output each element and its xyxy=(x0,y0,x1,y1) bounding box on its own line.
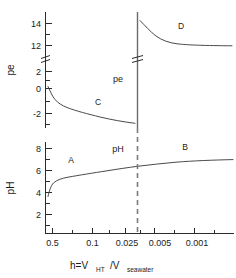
x-axis-title-mid: /V xyxy=(110,260,120,271)
pe-inline-label: pe xyxy=(113,74,123,84)
x-tick-label-1: 0.1 xyxy=(86,238,99,248)
pe-tick-label-12: 12 xyxy=(31,41,41,51)
pe-minor-ticks xyxy=(46,35,50,125)
ph-tick-label-4: 4 xyxy=(36,188,41,198)
pe-major-ticks xyxy=(46,24,52,114)
figure-root: 14 12 2 0 -2 pe C D pe xyxy=(0,0,236,278)
x-minor-ticks xyxy=(73,230,215,234)
curve-C xyxy=(48,87,135,124)
x-tick-label-3: 0.005 xyxy=(149,238,172,248)
ph-axis-title: pH xyxy=(5,182,16,195)
pe-panel: 14 12 2 0 -2 pe C D pe xyxy=(5,12,232,128)
pe-tick-label-minus2: -2 xyxy=(33,109,41,119)
curve-A xyxy=(48,166,138,196)
chart-svg: 14 12 2 0 -2 pe C D pe xyxy=(0,0,236,278)
x-tick-label-4: 0.001 xyxy=(186,238,209,248)
x-tick-label-0: 0.5 xyxy=(46,238,59,248)
pe-axis-title: pe xyxy=(5,64,16,76)
x-major-ticks xyxy=(53,228,195,234)
ph-panel: 8 6 4 2 pH 0.5 0.1 0.025 xyxy=(5,128,234,248)
x-axis-title-lead: h=V xyxy=(70,260,88,271)
pe-tick-label-14: 14 xyxy=(31,19,41,29)
ph-tick-label-6: 6 xyxy=(36,166,41,176)
curve-label-C: C xyxy=(95,97,101,107)
ph-tick-label-8: 8 xyxy=(36,144,41,154)
ph-inline-label: pH xyxy=(112,144,124,154)
curve-B xyxy=(138,160,234,167)
curve-label-A: A xyxy=(68,155,74,165)
x-axis-title-sub1: HT xyxy=(96,266,105,273)
x-axis-title-sub2: seawater xyxy=(127,266,154,273)
ph-tick-label-2: 2 xyxy=(36,210,41,220)
x-tick-label-2: 0.025 xyxy=(116,238,139,248)
x-axis-title: h=V HT /V seawater xyxy=(70,260,154,273)
curve-label-B: B xyxy=(182,142,188,152)
pe-tick-label-0: 0 xyxy=(36,84,41,94)
curve-D xyxy=(140,21,232,46)
curve-label-D: D xyxy=(178,21,184,31)
pe-tick-label-2: 2 xyxy=(36,67,41,77)
